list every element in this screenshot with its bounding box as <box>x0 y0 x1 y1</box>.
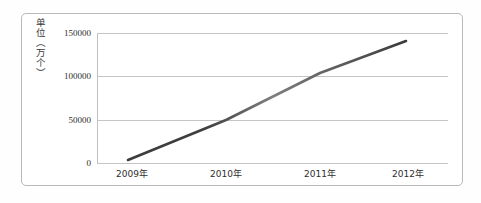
x-tick-label: 2012年 <box>392 167 424 180</box>
x-tick-label: 2009年 <box>116 167 148 180</box>
chart-canvas: 单位（万个） 150000 100000 50000 0 2009年 2010年 <box>0 0 481 203</box>
data-line <box>128 41 406 160</box>
x-axis-tick-labels: 2009年 2010年 2011年 2012年 <box>0 167 481 183</box>
x-tick-label: 2011年 <box>304 167 336 180</box>
x-tick-label: 2010年 <box>210 167 242 180</box>
